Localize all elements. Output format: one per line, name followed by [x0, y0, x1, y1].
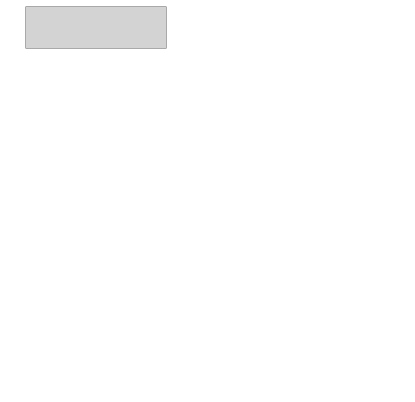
- context-bar-main: [26, 7, 166, 48]
- context-inference-diagram: [0, 0, 415, 402]
